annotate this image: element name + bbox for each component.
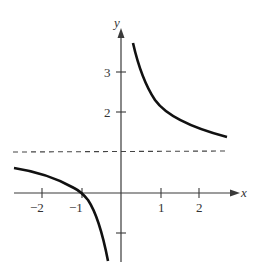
x-tick-label: 2 bbox=[196, 200, 203, 215]
y-tick-label: 2 bbox=[104, 105, 111, 120]
y-axis-label: y bbox=[112, 15, 120, 30]
x-tick-label: −1 bbox=[69, 200, 83, 215]
curve-left-branch bbox=[14, 168, 108, 261]
x-tick-label: −2 bbox=[30, 200, 44, 215]
x-axis-label: x bbox=[240, 185, 247, 200]
y-tick-label: 3 bbox=[104, 65, 111, 80]
x-axis-arrow-icon bbox=[230, 190, 240, 197]
function-graph: x y −2 −1 1 2 3 2 bbox=[0, 0, 259, 274]
curve-right-branch bbox=[133, 43, 227, 137]
x-tick-label: 1 bbox=[158, 200, 165, 215]
